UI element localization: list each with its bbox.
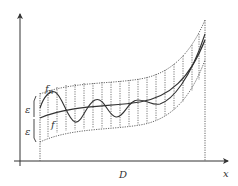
lower-band-curve bbox=[40, 60, 205, 142]
uniform-convergence-diagram: fn f ε ε D x bbox=[0, 0, 238, 186]
x-axis-label: x bbox=[223, 168, 229, 179]
f-label: f bbox=[50, 119, 57, 130]
epsilon-lower-label: ε bbox=[25, 126, 30, 137]
epsilon-bracket-lower bbox=[34, 119, 36, 142]
domain-label: D bbox=[118, 169, 127, 180]
fn-label: fn bbox=[44, 83, 54, 96]
epsilon-upper-label: ε bbox=[25, 104, 30, 115]
upper-band-curve bbox=[40, 20, 205, 94]
fn-curve bbox=[40, 34, 205, 122]
epsilon-bracket-upper bbox=[34, 96, 36, 117]
